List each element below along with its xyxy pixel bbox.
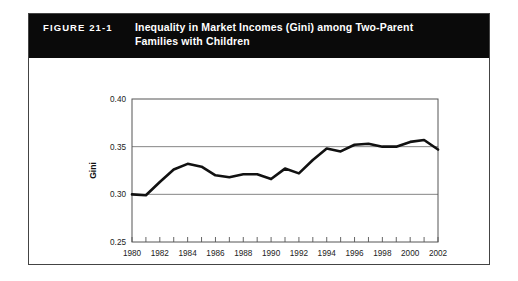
figure-title-line-2: Families with Children xyxy=(135,35,413,49)
x-axis-tick-label: 1986 xyxy=(206,249,225,258)
figure-container: FIGURE 21-1 Inequality in Market Incomes… xyxy=(28,13,490,265)
x-axis-tick-labels: 1980198219841986198819901992199419961998… xyxy=(123,249,448,258)
plot-frame xyxy=(132,99,438,242)
x-axis-tick-label: 2002 xyxy=(429,249,448,258)
x-axis-tick-label: 1990 xyxy=(262,249,281,258)
x-axis-tick-label: 1992 xyxy=(290,249,309,258)
x-axis-tick-label: 1998 xyxy=(373,249,392,258)
x-axis-tick-label: 1994 xyxy=(318,249,337,258)
y-axis-title: Gini xyxy=(88,162,98,179)
figure-header-band: FIGURE 21-1 Inequality in Market Incomes… xyxy=(29,14,489,58)
x-axis-tick-label: 1982 xyxy=(151,249,170,258)
line-chart-svg: 0.400.350.300.25 19801982198419861988199… xyxy=(29,58,489,264)
figure-title-line-1: Inequality in Market Incomes (Gini) amon… xyxy=(135,21,413,35)
y-axis-tick-label: 0.35 xyxy=(110,143,126,152)
x-axis-tick-label: 1984 xyxy=(179,249,198,258)
x-axis-tick-label: 1988 xyxy=(234,249,253,258)
x-axis-tick-label: 1980 xyxy=(123,249,142,258)
y-axis-tick-labels: 0.400.350.300.25 xyxy=(110,95,126,247)
x-axis-minor-ticks xyxy=(132,237,438,242)
chart-gridlines xyxy=(132,147,438,195)
chart-plot-area: 0.400.350.300.25 19801982198419861988199… xyxy=(29,58,489,264)
y-axis-tick-label: 0.40 xyxy=(110,95,126,104)
x-axis-tick-label: 2000 xyxy=(401,249,420,258)
gini-data-line xyxy=(132,140,438,195)
y-axis-tick-label: 0.25 xyxy=(110,238,126,247)
x-axis-tick-label: 1996 xyxy=(345,249,364,258)
figure-title: Inequality in Market Incomes (Gini) amon… xyxy=(135,21,413,48)
y-axis-tick-label: 0.30 xyxy=(110,190,126,199)
figure-number-label: FIGURE 21-1 xyxy=(43,21,135,33)
